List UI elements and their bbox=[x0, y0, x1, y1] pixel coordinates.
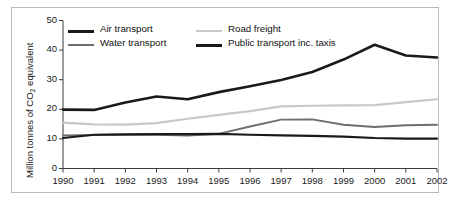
legend-label: Public transport inc. taxis bbox=[228, 37, 336, 48]
legend-label: Water transport bbox=[100, 37, 166, 48]
legend-swatch bbox=[196, 30, 222, 32]
y-axis-ticks bbox=[59, 21, 63, 169]
legend-swatch bbox=[68, 44, 94, 46]
y-axis-tick-label: 0 bbox=[27, 162, 57, 173]
legend-label: Air transport bbox=[100, 23, 153, 34]
legend-swatch bbox=[68, 30, 94, 33]
y-axis-tick-label: 10 bbox=[27, 132, 57, 143]
y-axis-tick-label: 40 bbox=[27, 43, 57, 54]
data-series-group bbox=[63, 45, 437, 139]
y-axis-tick-label: 30 bbox=[27, 73, 57, 84]
x-axis-ticks bbox=[63, 169, 437, 173]
figure-container: Million tonnes of CO2 equivalent 0102030… bbox=[0, 0, 452, 202]
series-line-water-transport bbox=[63, 119, 437, 135]
x-axis-tick-label: 2002 bbox=[419, 175, 452, 186]
y-axis-tick-label: 20 bbox=[27, 102, 57, 113]
series-line-public-transport-inc-taxis bbox=[63, 134, 437, 139]
series-line-air-transport bbox=[63, 45, 437, 110]
y-axis-tick-label: 50 bbox=[27, 14, 57, 25]
legend-label: Road freight bbox=[228, 23, 281, 34]
legend-swatch bbox=[196, 44, 222, 47]
